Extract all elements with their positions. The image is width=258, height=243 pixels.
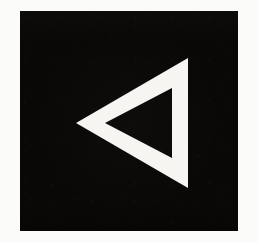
triangle-paint-layer [20, 11, 238, 231]
triangle-left-outline [20, 11, 238, 231]
image-canvas [0, 0, 258, 243]
black-square-plate [20, 11, 238, 231]
